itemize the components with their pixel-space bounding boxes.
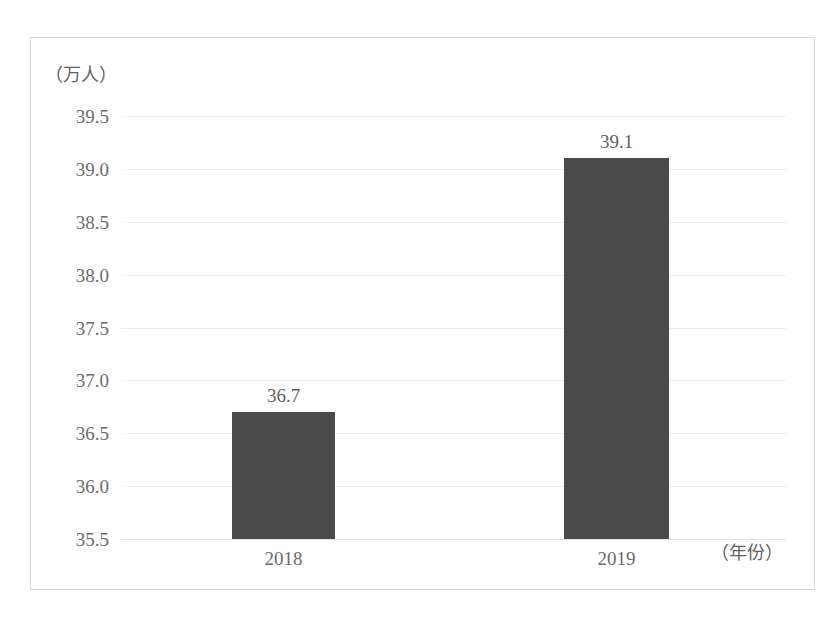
gridline-39-0: 39.0 (121, 169, 786, 170)
y-tick-label-36-5: 36.5 (76, 424, 109, 443)
x-axis-title: （年份） (711, 538, 783, 564)
gridline-35-5-baseline: 35.5 (121, 539, 786, 540)
bar-value-2019: 39.1 (600, 132, 633, 151)
gridline-36-0: 36.0 (121, 486, 786, 487)
y-tick-label-37-5: 37.5 (76, 318, 109, 337)
y-tick-label-38-0: 38.0 (76, 265, 109, 284)
chart-frame: （万人） （年份） 39.5 39.0 38.5 38.0 37.5 37.0 … (30, 37, 815, 590)
gridline-39-5: 39.5 (121, 116, 786, 117)
gridline-36-5: 36.5 (121, 433, 786, 434)
gridline-37-0: 37.0 (121, 380, 786, 381)
gridline-38-0: 38.0 (121, 275, 786, 276)
bar-2018[interactable]: 36.7 2018 (232, 412, 335, 539)
y-tick-label-38-5: 38.5 (76, 212, 109, 231)
x-tick-label-2019: 2019 (598, 549, 636, 568)
x-tick-label-2018: 2018 (265, 549, 303, 568)
y-axis-title: （万人） (45, 60, 117, 86)
plot-area: 39.5 39.0 38.5 38.0 37.5 37.0 36.5 36.0 … (121, 116, 786, 539)
gridline-38-5: 38.5 (121, 222, 786, 223)
gridline-37-5: 37.5 (121, 328, 786, 329)
y-tick-label-37-0: 37.0 (76, 371, 109, 390)
bar-2019[interactable]: 39.1 2019 (564, 158, 669, 539)
y-tick-label-36-0: 36.0 (76, 477, 109, 496)
y-tick-label-39-0: 39.0 (76, 159, 109, 178)
bar-value-2018: 36.7 (267, 386, 300, 405)
y-tick-label-35-5: 35.5 (76, 530, 109, 549)
y-tick-label-39-5: 39.5 (76, 107, 109, 126)
